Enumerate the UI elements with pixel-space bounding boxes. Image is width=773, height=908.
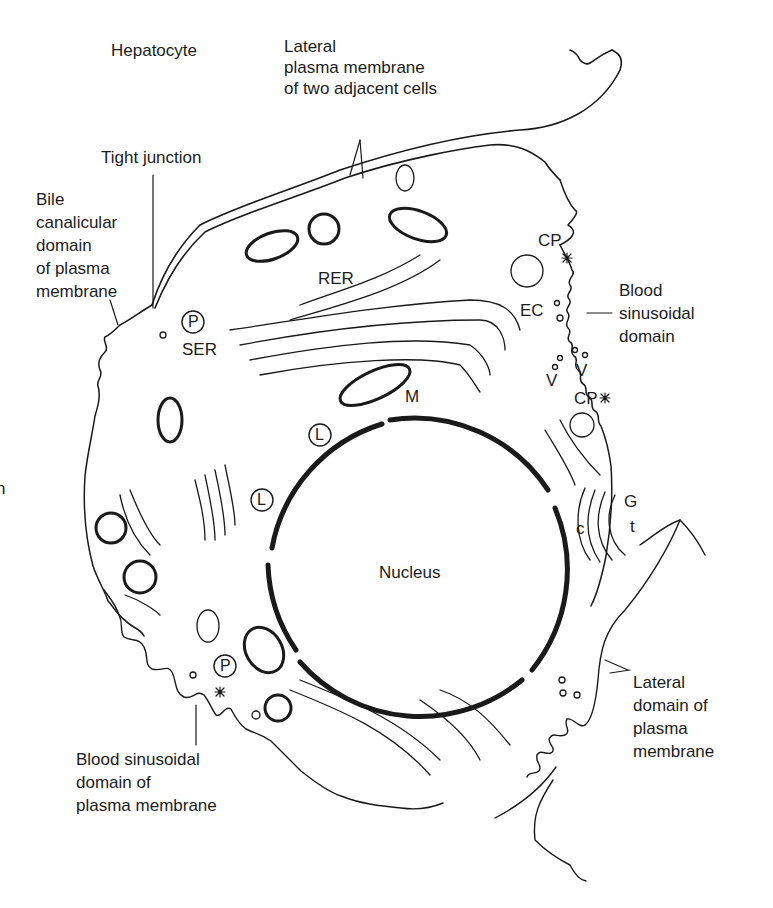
label-l-top: L [315, 426, 324, 444]
coated-pits [215, 253, 610, 697]
golgi-apparatus [195, 465, 625, 562]
label-line: membrane [36, 280, 117, 303]
label-bile-canalicular: Bile canalicular domain of plasma membra… [36, 188, 117, 303]
label-l-mid: L [257, 491, 266, 509]
label-line: Blood [619, 279, 695, 302]
label-hepatocyte: Hepatocyte [111, 40, 197, 61]
label-g: G [624, 491, 637, 512]
vesicles [160, 165, 594, 719]
label-lateral-plasma-membrane: Lateral plasma membrane of two adjacent … [284, 36, 437, 99]
label-cp-bottom: CP [574, 388, 598, 409]
label-line: sinusoidal [619, 302, 695, 325]
label-blood-sinusoidal-domain-bottom: Blood sinusoidal domain of plasma membra… [76, 748, 217, 817]
label-ser: SER [182, 339, 217, 360]
label-lateral-domain: Lateral domain of plasma membrane [633, 671, 714, 763]
label-p-top: P [188, 313, 199, 331]
label-edge-fragment: n [0, 478, 5, 499]
label-c: c [576, 518, 585, 539]
label-line: domain [36, 234, 117, 257]
label-m: M [405, 386, 419, 407]
mitochondria [96, 202, 451, 721]
label-line: canalicular [36, 211, 117, 234]
label-cp-top: CP [538, 230, 562, 251]
label-line: membrane [633, 740, 714, 763]
label-ec: EC [520, 300, 544, 321]
label-line: plasma membrane [76, 794, 217, 817]
label-t: t [630, 516, 635, 537]
label-line: Lateral [633, 671, 714, 694]
label-line: of two adjacent cells [284, 78, 437, 99]
label-tight-junction: Tight junction [101, 147, 201, 168]
label-line: Lateral [284, 36, 437, 57]
label-line: plasma membrane [284, 57, 437, 78]
label-line: domain of [633, 694, 714, 717]
label-line: of plasma [36, 257, 117, 280]
label-line: plasma [633, 717, 714, 740]
label-nucleus: Nucleus [379, 562, 440, 583]
label-line: Bile [36, 188, 117, 211]
label-rer: RER [318, 268, 354, 289]
label-v-right: V [576, 360, 587, 381]
label-line: domain [619, 325, 695, 348]
label-line: Blood sinusoidal [76, 748, 217, 771]
label-v-left: V [546, 370, 557, 391]
label-blood-sinusoidal-domain: Blood sinusoidal domain [619, 279, 695, 348]
label-p-bottom: P [220, 657, 231, 675]
label-line: domain of [76, 771, 217, 794]
